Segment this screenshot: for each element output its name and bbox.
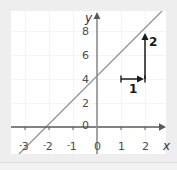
rise-label: 2: [149, 36, 157, 48]
x-tick-value: 3: [22, 140, 29, 153]
x-tick-label-2: 2: [142, 141, 149, 152]
x-tick-label-neg3: -3: [19, 141, 29, 152]
y-tick-label-2: 2: [82, 98, 89, 109]
run-label: 1: [129, 83, 137, 95]
x-axis-label: x: [163, 140, 170, 152]
graph-figure: 8 6 4 2 0 -3 -2 -1 0 1 2 y x 1 2: [0, 0, 177, 170]
y-tick-label-0: 0: [82, 120, 89, 131]
rise-arrow-head: [141, 33, 148, 40]
x-tick-value: 2: [46, 140, 53, 153]
y-tick-label-6: 6: [82, 50, 89, 61]
x-tick-label-0: 0: [94, 141, 101, 152]
y-tick-label-8: 8: [82, 26, 89, 37]
y-axis-label: y: [85, 12, 92, 24]
y-tick-label-4: 4: [82, 74, 89, 85]
x-tick-label-neg2: -2: [43, 141, 53, 152]
run-arrow-head: [137, 75, 144, 82]
x-tick-label-neg1: -1: [67, 141, 77, 152]
x-tick-value: 1: [70, 140, 77, 153]
figure-frame: 8 6 4 2 0 -3 -2 -1 0 1 2 y x 1 2: [0, 0, 177, 163]
x-tick-label-1: 1: [118, 141, 125, 152]
